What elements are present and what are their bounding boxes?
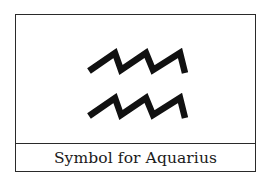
figure-frame: Symbol for Aquarius <box>15 14 256 172</box>
caption-divider <box>16 143 255 144</box>
aquarius-wave-bottom <box>89 98 185 118</box>
aquarius-icon <box>16 15 257 143</box>
symbol-area <box>16 15 255 143</box>
aquarius-wave-top <box>89 53 185 73</box>
figure-caption: Symbol for Aquarius <box>16 145 255 171</box>
